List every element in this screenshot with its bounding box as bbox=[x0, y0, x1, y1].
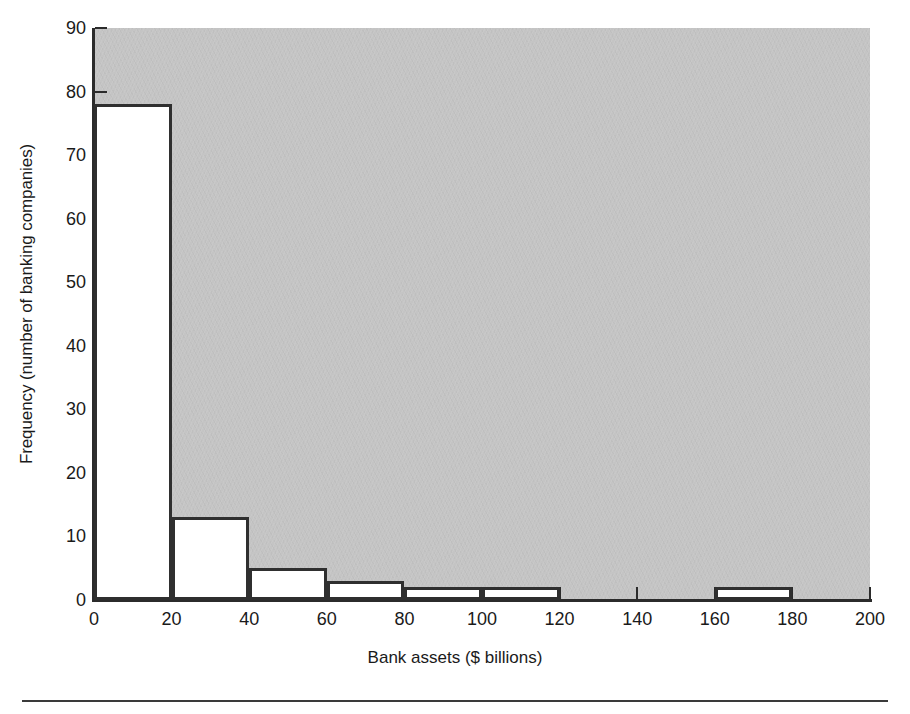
y-tick-label-60: 60 bbox=[38, 210, 86, 228]
y-tick-label-0: 0 bbox=[38, 591, 86, 609]
x-axis-tick-labels: 020406080100120140160180200 bbox=[0, 608, 910, 636]
bottom-divider bbox=[22, 700, 888, 702]
x-axis-title: Bank assets ($ billions) bbox=[0, 648, 910, 668]
y-tick-label-90: 90 bbox=[38, 19, 86, 37]
x-tick-label-160: 160 bbox=[680, 608, 750, 630]
histogram-bar bbox=[327, 581, 405, 600]
histogram-bar bbox=[172, 517, 250, 600]
y-axis-tick-labels: 0102030405060708090 bbox=[38, 0, 86, 714]
histogram-bar bbox=[404, 587, 482, 600]
x-tick-200 bbox=[869, 587, 871, 599]
histogram-figure: 0102030405060708090 02040608010012014016… bbox=[0, 0, 910, 714]
x-tick-label-180: 180 bbox=[757, 608, 827, 630]
plot-panel bbox=[94, 28, 870, 600]
y-tick-label-50: 50 bbox=[38, 273, 86, 291]
x-tick-label-100: 100 bbox=[447, 608, 517, 630]
histogram-bar bbox=[94, 104, 172, 600]
y-tick-label-80: 80 bbox=[38, 83, 86, 101]
x-tick-label-120: 120 bbox=[525, 608, 595, 630]
panel-texture bbox=[94, 28, 870, 600]
histogram-bar bbox=[482, 587, 560, 600]
y-tick-label-40: 40 bbox=[38, 337, 86, 355]
x-tick-label-40: 40 bbox=[214, 608, 284, 630]
y-tick-80 bbox=[95, 91, 107, 93]
x-tick-label-200: 200 bbox=[835, 608, 905, 630]
y-tick-90 bbox=[95, 27, 107, 29]
x-tick-140 bbox=[636, 587, 638, 599]
x-tick-label-80: 80 bbox=[369, 608, 439, 630]
y-tick-label-10: 10 bbox=[38, 527, 86, 545]
x-tick-label-0: 0 bbox=[59, 608, 129, 630]
x-tick-label-20: 20 bbox=[137, 608, 207, 630]
y-tick-label-30: 30 bbox=[38, 400, 86, 418]
histogram-bar bbox=[715, 587, 793, 600]
y-tick-label-20: 20 bbox=[38, 464, 86, 482]
y-axis-title: Frequency (number of banking companies) bbox=[14, 0, 40, 608]
x-tick-label-140: 140 bbox=[602, 608, 672, 630]
histogram-bar bbox=[249, 568, 327, 600]
y-tick-label-70: 70 bbox=[38, 146, 86, 164]
x-tick-label-60: 60 bbox=[292, 608, 362, 630]
